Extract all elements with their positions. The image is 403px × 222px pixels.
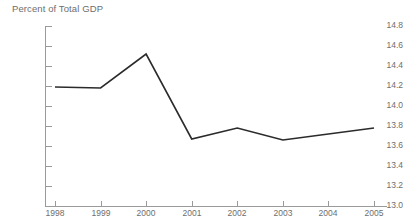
plot-area: 14.814.614.414.214.013.813.613.413.213.0…: [0, 0, 403, 222]
line-chart: Percent of Total GDP 14.814.614.414.214.…: [0, 0, 403, 222]
series-line: [0, 0, 403, 222]
